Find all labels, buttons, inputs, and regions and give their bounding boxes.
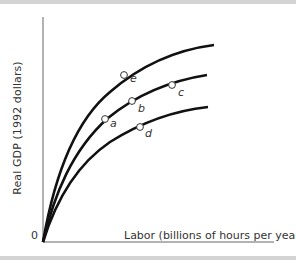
point-c-marker	[169, 82, 176, 89]
curve-middle	[43, 75, 207, 242]
point-e-marker	[121, 72, 128, 79]
curve-top	[43, 45, 214, 242]
curve-bottom	[43, 107, 208, 242]
point-d-marker	[137, 124, 144, 131]
point-c-label: c	[178, 86, 184, 99]
origin-label: 0	[31, 229, 38, 242]
point-b-label: b	[138, 102, 145, 115]
point-b-marker	[129, 98, 136, 105]
point-d-label: d	[145, 127, 152, 140]
point-e-label: e	[130, 72, 137, 85]
bottom-border-band	[0, 256, 296, 260]
x-axis-label: Labor (billions of hours per year)	[124, 229, 296, 242]
point-a-marker	[102, 116, 109, 123]
point-a-label: a	[110, 117, 117, 130]
y-axis-label: Real GDP (1992 dollars)	[11, 61, 24, 195]
